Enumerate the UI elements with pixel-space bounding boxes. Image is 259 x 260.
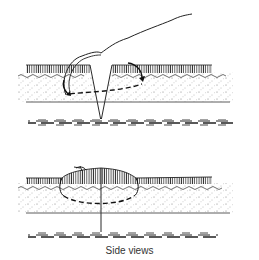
dermis-layer [18,183,233,213]
muscle-layer [28,232,218,238]
bottom-panel [18,166,233,238]
epidermis-layer-left [26,65,90,73]
diagram-canvas [0,0,259,260]
top-panel [18,14,233,126]
muscle-layer [28,119,233,126]
epidermis-layer-right [112,65,212,73]
dermis-layer [18,72,233,102]
figure-caption: Side views [0,245,259,256]
